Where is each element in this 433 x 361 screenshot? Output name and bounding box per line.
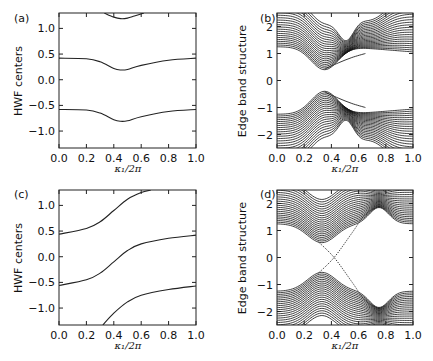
data-line	[59, 190, 151, 234]
bulk-band-upper	[277, 205, 413, 234]
x-tick-label: 0.0	[268, 152, 286, 165]
y-tick-label: −1.0	[28, 125, 55, 138]
x-tick-label: 0.6	[350, 329, 368, 342]
y-tick-label: 1	[266, 225, 273, 238]
data-line	[59, 58, 196, 70]
x-tick-label: 0.8	[160, 152, 178, 165]
x-tick-label: 0.4	[323, 152, 341, 165]
figure: (a) HWF centers κ₁/2π 0.00.20.40.60.81.0…	[0, 0, 433, 361]
y-tick-label: 2	[266, 198, 273, 211]
plot-area-d: 0.00.20.40.60.81.0210−1−2	[257, 181, 422, 342]
bulk-band-lower	[277, 281, 413, 310]
data-line	[103, 286, 196, 325]
plot-area-b: 0.00.20.40.60.81.0210−1−2	[257, 0, 422, 165]
y-tick-label: 2	[266, 21, 273, 34]
x-tick-label: 1.0	[187, 329, 205, 342]
data-line	[59, 110, 196, 122]
x-tick-label: 0.8	[160, 329, 178, 342]
x-tick-label: 0.2	[78, 152, 96, 165]
y-tick-label: 0	[266, 252, 273, 265]
data-line	[59, 235, 196, 285]
x-tick-label: 0.6	[350, 152, 368, 165]
y-tick-label: 0.0	[38, 251, 56, 264]
x-tick-label: 0.2	[295, 329, 313, 342]
plot-lines-c	[59, 190, 196, 325]
panel-c: (c) HWF centers κ₁/2π 0.00.20.40.60.81.0…	[12, 188, 205, 351]
y-tick-label: 0.5	[38, 225, 56, 238]
panel-b: (b) Edge band structure κ₁/2π 0.00.20.40…	[236, 0, 422, 174]
y-tick-label: 1.0	[38, 22, 56, 35]
x-tick-label: 0.6	[132, 329, 150, 342]
bulk-band-lower	[277, 118, 413, 156]
x-tick-label: 0.6	[132, 152, 150, 165]
axes-frame	[59, 190, 196, 325]
y-tick-label: −1	[257, 279, 273, 292]
y-tick-label: −0.5	[28, 276, 55, 289]
x-tick-label: 1.0	[404, 152, 422, 165]
y-tick-label: 0.0	[38, 74, 56, 87]
x-tick-label: 0.4	[105, 152, 123, 165]
plot-area-a: 0.00.20.40.60.81.01.00.50.0−0.5−1.0	[28, 13, 204, 165]
y-tick-label: 1	[266, 48, 273, 61]
y-tick-label: −1	[257, 102, 273, 115]
y-tick-label: −2	[257, 306, 273, 319]
x-tick-label: 0.4	[105, 329, 123, 342]
ylabel-b: Edge band structure	[236, 25, 249, 138]
y-tick-label: −1.0	[28, 302, 55, 315]
x-tick-label: 0.2	[295, 152, 313, 165]
x-tick-label: 1.0	[187, 152, 205, 165]
plot-area-c: 0.00.20.40.60.81.01.00.50.0−0.5−1.0	[28, 190, 204, 342]
x-tick-label: 0.2	[78, 329, 96, 342]
plot-lines-a	[59, 13, 196, 121]
panel-label-c: (c)	[14, 188, 29, 201]
data-line	[104, 13, 144, 19]
x-tick-label: 1.0	[404, 329, 422, 342]
panel-label-a: (a)	[14, 12, 29, 25]
x-tick-label: 0.4	[323, 329, 341, 342]
x-tick-label: 0.8	[377, 152, 395, 165]
y-tick-label: −0.5	[28, 99, 55, 112]
x-tick-label: 0.8	[377, 329, 395, 342]
ylabel-d: Edge band structure	[236, 202, 249, 315]
y-tick-label: 0	[266, 75, 273, 88]
panel-d: (d) Edge band structure κ₁/2π 0.00.20.40…	[236, 181, 422, 351]
y-tick-label: 1.0	[38, 199, 56, 212]
x-tick-label: 0.0	[50, 152, 68, 165]
plot-lines-b	[277, 0, 413, 161]
x-tick-label: 0.0	[268, 329, 286, 342]
y-tick-label: 0.5	[38, 48, 56, 61]
ylabel-a: HWF centers	[12, 46, 25, 116]
y-tick-label: −2	[257, 129, 273, 142]
bulk-band-upper	[277, 5, 413, 43]
ylabel-c: HWF centers	[12, 223, 25, 293]
axes-frame	[59, 13, 196, 148]
plot-lines-d	[277, 181, 413, 335]
panel-a: (a) HWF centers κ₁/2π 0.00.20.40.60.81.0…	[12, 12, 205, 174]
x-tick-label: 0.0	[50, 329, 68, 342]
axes-frame	[277, 13, 413, 148]
